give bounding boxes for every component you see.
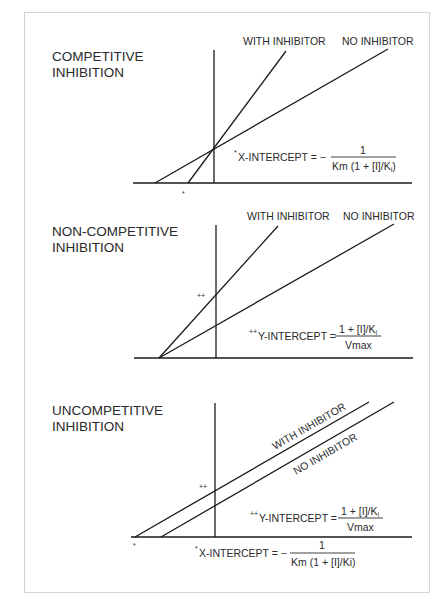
formula-mark: ++	[249, 328, 257, 335]
formula-numerator: 1 + [I]/Ki	[341, 505, 379, 518]
formula-denominator: Km (1 + [I]/Ki)	[332, 160, 396, 173]
formula-lhs: X-INTERCEPT = −	[199, 547, 287, 559]
x-intercept-marker: *	[182, 190, 185, 197]
panel-title-line1: UNCOMPETITIVE	[52, 403, 163, 418]
formula-denominator: Km (1 + [I]/Ki)	[291, 556, 355, 568]
panel-title-line2: INHIBITION	[52, 65, 124, 80]
formula-lhs: X-INTERCEPT = −	[238, 151, 326, 163]
panel-title-line2: INHIBITION	[52, 240, 124, 255]
panel-title-line1: COMPETITIVE	[52, 49, 144, 64]
formula-numerator: 1	[360, 144, 366, 156]
formula-numerator: 1 + [I]/Ki	[339, 323, 377, 336]
formula-lhs: Y-INTERCEPT =	[259, 512, 337, 524]
label-with-inhibitor: WITH INHIBITOR	[247, 210, 330, 222]
inhibition-diagram: COMPETITIVE INHIBITION WITH INHIBITOR NO…	[0, 0, 440, 600]
label-with-inhibitor: WITH INHIBITOR	[243, 35, 326, 47]
formula-lhs: Y-INTERCEPT =	[258, 330, 336, 342]
label-no-inhibitor: NO INHIBITOR	[343, 210, 415, 222]
formula-mark: *	[234, 149, 237, 156]
formula-numerator: 1	[319, 539, 325, 551]
x-intercept-marker: *	[133, 542, 136, 549]
y-intercept-marker: ++	[199, 483, 207, 490]
panel-title-line2: INHIBITION	[52, 419, 124, 434]
label-no-inhibitor: NO INHIBITOR	[342, 35, 414, 47]
formula-mark: ++	[250, 510, 258, 517]
formula-denominator: Vmax	[347, 521, 375, 533]
formula-mark: *	[195, 545, 198, 552]
formula-denominator: Vmax	[345, 339, 373, 351]
panel-title-line1: NON-COMPETITIVE	[52, 224, 178, 239]
y-intercept-marker: ++	[197, 292, 205, 299]
